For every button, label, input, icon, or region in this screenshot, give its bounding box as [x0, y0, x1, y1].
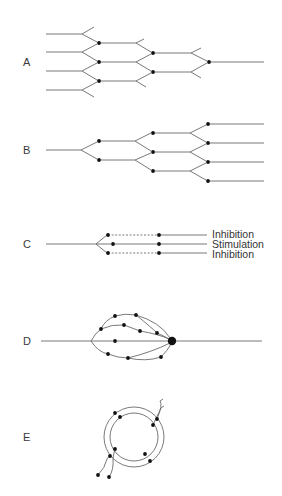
axon-segment: [191, 48, 201, 53]
axon-segment: [190, 163, 206, 171]
synapse-node: [113, 314, 117, 318]
axon-curve: [157, 401, 161, 419]
reverberating-circuit-diagram: [96, 399, 164, 479]
axon-segment: [135, 153, 151, 160]
axon-curve: [108, 354, 128, 358]
axon-curve: [115, 314, 136, 316]
axon-curve: [101, 325, 124, 329]
target-neuron: [168, 337, 176, 345]
axon-curve: [101, 316, 115, 329]
axon-curve: [160, 399, 163, 401]
axon-segment: [191, 63, 207, 72]
synapse-node: [151, 131, 155, 135]
synapse-node: [97, 60, 101, 64]
axon-curve: [140, 331, 169, 339]
axon-segment: [135, 141, 151, 151]
synapse-node: [157, 233, 161, 237]
panel-label-b: B: [23, 144, 30, 156]
axon-segment: [82, 82, 97, 90]
synapse-node: [206, 122, 210, 126]
synapse-node: [155, 417, 159, 421]
axon-curve: [109, 458, 113, 477]
axon-curve: [98, 459, 107, 475]
lateral-inhibition-diagram: [46, 233, 207, 255]
axon-curve: [91, 329, 101, 341]
panel-label-d: D: [23, 335, 31, 347]
panel-c-annotations: Inhibition Stimulation Inhibition: [212, 228, 264, 260]
panel-label-e: E: [23, 431, 30, 443]
axon-segment: [190, 125, 206, 133]
axon-curve: [128, 343, 170, 358]
synapse-node: [107, 475, 111, 479]
axon-curve: [161, 344, 171, 357]
panel-label-c: C: [23, 238, 31, 250]
axon-segment: [136, 39, 144, 43]
loop-ring: [110, 413, 158, 461]
axon-segment: [190, 171, 206, 180]
axon-curve: [128, 357, 161, 360]
axon-segment: [96, 244, 107, 253]
synapse-node: [151, 70, 155, 74]
axon-segment: [96, 235, 107, 244]
synapse-node: [134, 313, 138, 317]
synapse-node: [151, 169, 155, 173]
synapse-node: [113, 411, 117, 415]
synapse-node: [151, 423, 155, 427]
synapse-node: [113, 447, 117, 451]
axon-curve: [136, 315, 170, 338]
axon-segment: [82, 90, 94, 97]
synapse-node: [138, 329, 142, 333]
neural-circuit-figure: A B C D E Inhibition Stimulation Inhibit…: [0, 0, 282, 496]
synapse-node: [206, 160, 210, 164]
axon-segment: [81, 150, 97, 159]
axon-segment: [191, 53, 207, 61]
axon-curve: [91, 341, 108, 354]
axon-segment: [82, 52, 97, 61]
axon-segment: [136, 54, 151, 62]
synapse-node: [207, 60, 211, 64]
axon-segment: [190, 133, 206, 142]
axon-segment: [81, 142, 97, 150]
synapse-node: [157, 251, 161, 255]
axon-segment: [190, 152, 206, 161]
parallel-pathway-diagram: [41, 313, 262, 360]
synapse-node: [206, 179, 210, 183]
inhibition-label-bottom: Inhibition: [212, 248, 254, 260]
axon-segment: [82, 34, 97, 42]
axon-segment: [82, 27, 94, 34]
synapse-node: [111, 242, 115, 246]
panel-label-a: A: [23, 56, 31, 68]
axon-segment: [136, 81, 146, 87]
synapse-node: [106, 251, 110, 255]
synapse-node: [206, 141, 210, 145]
synapse-node: [143, 452, 147, 456]
synapse-node: [148, 459, 152, 463]
synapse-node: [97, 158, 101, 162]
axon-segment: [136, 62, 151, 71]
synapse-node: [126, 356, 130, 360]
axon-segment: [135, 133, 151, 141]
synapse-node: [106, 233, 110, 237]
synapse-node: [155, 331, 159, 335]
synapse-node: [106, 352, 110, 356]
axon-segment: [82, 63, 97, 71]
panel-labels: A B C D E: [23, 56, 31, 443]
divergence-circuit-diagram: [46, 122, 264, 183]
synapse-node: [96, 473, 100, 477]
axon-segment: [190, 144, 206, 152]
axon-segment: [82, 71, 97, 80]
synapse-node: [97, 139, 101, 143]
synapse-node: [118, 415, 122, 419]
synapse-node: [159, 355, 163, 359]
axon-curve: [124, 325, 140, 331]
axon-segment: [82, 44, 97, 52]
synapse-node: [99, 327, 103, 331]
synapse-node: [97, 79, 101, 83]
axon-segment: [191, 72, 201, 78]
convergence-circuit-diagram: [46, 27, 264, 97]
axon-curve: [161, 406, 164, 408]
synapse-node: [108, 454, 112, 458]
synapse-node: [157, 242, 161, 246]
synapse-node: [122, 323, 126, 327]
synapse-node: [151, 51, 155, 55]
